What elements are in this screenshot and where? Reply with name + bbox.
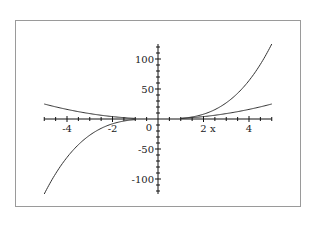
y-tick-label: 100 (135, 54, 154, 65)
x-tick-label: -4 (62, 123, 72, 134)
x-axis-label: x (210, 123, 216, 134)
x-tick-label: 2 (200, 123, 206, 134)
plot-area: -4-224-100-50050100 x (0, 0, 314, 225)
y-tick-label: 0 (146, 122, 152, 133)
y-tick-label: -50 (138, 144, 154, 155)
x-tick-label: 4 (246, 123, 252, 134)
y-tick-label: 50 (141, 84, 154, 95)
curve-quadratic (44, 104, 135, 118)
axes (44, 44, 272, 194)
x-tick-label: -2 (108, 123, 118, 134)
curve-cubic (44, 120, 135, 194)
y-tick-label: -100 (132, 174, 154, 185)
